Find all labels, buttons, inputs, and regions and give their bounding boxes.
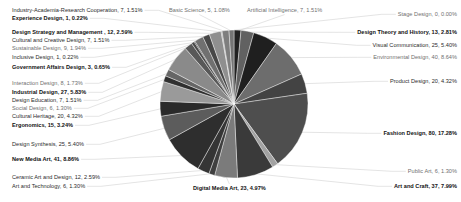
pie-slice-label: Fashion Design, 80, 17.28% (383, 130, 457, 137)
leader-line (86, 128, 165, 144)
leader-line (135, 32, 216, 33)
pie-slice-label: Sustainable Design, 9, 1.94% (12, 45, 86, 52)
pie-slice-label: Industry-Academia-Research Cooperation, … (12, 7, 143, 14)
leader-line (238, 15, 285, 32)
pie-slice-label: Inclusive Design, 1, 0.22% (12, 54, 78, 61)
pie-slice-label: Design Strategy and Management , 12, 2.5… (12, 29, 133, 36)
leader-line (84, 73, 168, 100)
leader-line (80, 42, 195, 57)
leader-line (85, 91, 162, 116)
pie-slice-label: Stage Design, 0, 0.00% (398, 11, 457, 18)
pie-slice-label: Design Theory and History, 13, 2.81% (357, 29, 457, 36)
pie-slice-label: Environmental Design, 40, 8.64% (373, 54, 457, 61)
pie-slice-label: Experience Design, 1, 0.22% (12, 15, 88, 22)
pie-slice-label: Social Design, 6, 1.30% (12, 105, 72, 112)
pie-slice-label: Interaction Design, 8, 1.73% (12, 80, 83, 87)
pie-slice-layer (160, 30, 308, 178)
pie-slice-label: Cultural Heritage, 20, 4.32% (12, 113, 83, 120)
pie-slice-label: Product Design, 20, 4.32% (390, 78, 457, 85)
pie-slice-label: Government Affairs Design, 3, 0.65% (12, 64, 110, 71)
leader-line (81, 156, 182, 160)
pie-slice-label: Ceramic Art and Design, 12, 2.59% (12, 174, 100, 181)
leader-line (234, 14, 396, 30)
leader-line (265, 38, 370, 45)
pie-slice-label: Design Synthesis, 25, 5.40% (12, 141, 84, 148)
pie-chart-figure: Industry-Academia-Research Cooperation, … (0, 0, 461, 202)
pie-slice-label: Art and Technology, 6, 1.30% (12, 183, 85, 190)
pie-slice-label: New Media Art, 41, 8.86% (12, 156, 79, 163)
leader-line (112, 36, 207, 40)
pie-slice-label: Public Art, 6, 1.30% (408, 168, 457, 175)
leader-line (75, 109, 161, 126)
pie-slice-label: Art and Craft, 37, 7.99% (394, 183, 457, 190)
pie-slice-label: Design Education, 7, 1.51% (12, 97, 82, 104)
leader-line (301, 132, 381, 133)
leader-line (275, 165, 406, 172)
pie-slice-label: Digital Media Art, 23, 4.97% (193, 185, 266, 192)
pie-slice-label: Artificial Intelligence, 7, 1.51% (247, 7, 322, 14)
pie-slice-label: Industrial Design, 27, 5.83% (12, 89, 86, 96)
leader-line (256, 174, 393, 187)
pie-slice-label: Basic Science, 5, 1.08% (169, 7, 230, 14)
pie-slice-label: Cultural and Creative Design, 7, 1.51% (12, 37, 109, 44)
pie-slice-label: Ergonomics, 15, 3.24% (12, 122, 73, 129)
leader-line (304, 81, 388, 83)
pie-slice-label: Visual Communication, 25, 5.40% (373, 42, 457, 49)
